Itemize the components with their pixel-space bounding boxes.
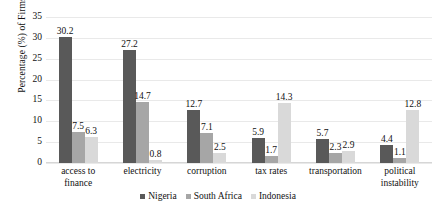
bar-value-label: 27.2 [121,39,138,49]
legend-swatch-icon [251,194,256,199]
gridline [46,121,432,122]
y-axis-tick-label: 35 [33,12,43,22]
bar [252,138,265,163]
gridline [46,163,432,164]
bar-value-label: 1.7 [265,145,277,155]
bar-value-label: 5.9 [252,127,264,137]
x-axis-category-label-line: access to [46,166,110,178]
bar-value-label: 1.1 [394,147,406,157]
bar-value-label: 12.8 [405,99,422,109]
x-axis-category-label: tax rates [239,166,303,178]
x-axis-category-label: access tofinance [46,166,110,189]
bar [380,145,393,163]
legend-swatch-icon [140,194,145,199]
x-axis-category-label-line: transportation [303,166,367,178]
bar [149,160,162,163]
bar [200,133,213,163]
x-axis-category-label: electricity [110,166,174,178]
bar [136,102,149,163]
y-axis-tick-label: 10 [33,117,43,127]
x-axis-category-label: corruption [175,166,239,178]
bar-group: 12.77.12.5 [187,17,226,163]
legend-label: South Africa [194,191,242,201]
bar [393,158,406,163]
y-axis-tick-labels: 35302520151050 [22,0,42,214]
y-axis-tick-label: 20 [33,75,43,85]
y-axis-tick-label: 5 [37,137,42,147]
gridline [46,17,432,18]
bar [85,137,98,163]
bar-value-label: 7.5 [72,121,84,131]
x-axis-category-label-line: corruption [175,166,239,178]
bar [123,50,136,163]
bar-value-label: 2.3 [330,142,342,152]
bar-group: 30.27.56.3 [59,17,98,163]
legend-item[interactable]: South Africa [186,191,242,201]
gridline [46,100,432,101]
bar-group: 4.41.112.8 [380,17,419,163]
y-axis-tick-label: 30 [33,33,43,43]
bar-value-label: 6.3 [85,126,97,136]
bar-value-label: 7.1 [201,122,213,132]
bar-value-label: 4.4 [381,134,393,144]
bar [406,110,419,163]
bar [187,110,200,163]
gridline [46,59,432,60]
gridline [46,142,432,143]
x-axis-category-label-line: political [368,166,432,178]
plot-area: 30.27.56.327.214.70.812.77.12.55.91.714.… [46,17,432,163]
x-axis-category-label-line: tax rates [239,166,303,178]
grouped-bar-chart: Percentage (%) of Firms 35302520151050 3… [0,0,436,214]
x-axis-category-label: politicalinstability [368,166,432,189]
bar-value-label: 30.2 [57,26,74,36]
gridline [46,38,432,39]
legend-item[interactable]: Indonesia [251,191,296,201]
bar-group: 5.91.714.3 [252,17,291,163]
bar-value-label: 14.7 [134,91,151,101]
legend-swatch-icon [186,194,191,199]
bar-group: 5.72.32.9 [316,17,355,163]
bar [278,103,291,163]
bar-value-label: 2.5 [214,142,226,152]
bar-value-label: 14.3 [276,92,293,102]
y-axis-tick-label: 25 [33,54,43,64]
legend-item[interactable]: Nigeria [140,191,177,201]
legend-label: Indonesia [259,191,296,201]
bar-value-label: 0.8 [150,149,162,159]
y-axis-tick-label: 15 [33,96,43,106]
bar [316,139,329,163]
bar [213,153,226,163]
bar [329,153,342,163]
legend-label: Nigeria [148,191,177,201]
bar-value-label: 2.9 [343,140,355,150]
bar-value-label: 12.7 [186,99,203,109]
x-axis-category-label: transportation [303,166,367,178]
x-axis-category-label-line: finance [46,178,110,190]
chart-legend: NigeriaSouth AfricaIndonesia [0,191,436,201]
bar-group: 27.214.70.8 [123,17,162,163]
bar-value-label: 5.7 [317,128,329,138]
gridline [46,80,432,81]
bar [59,37,72,163]
y-axis-tick-label: 0 [37,158,42,168]
x-axis-category-label-line: instability [368,178,432,190]
bar [265,156,278,163]
x-axis-category-label-line: electricity [110,166,174,178]
bar [342,151,355,163]
bar [72,132,85,163]
